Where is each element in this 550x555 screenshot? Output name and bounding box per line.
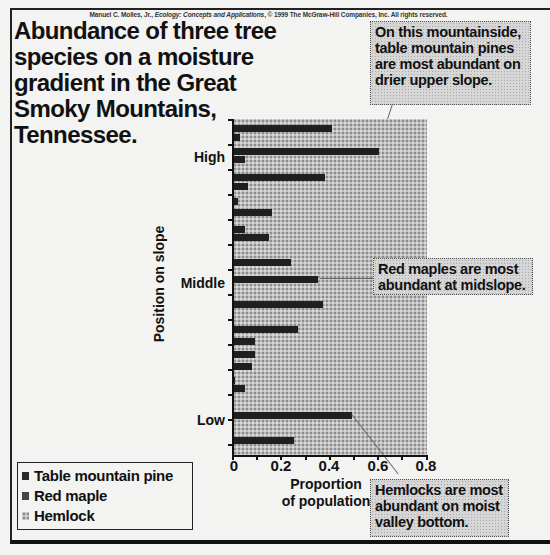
- legend-swatch: [22, 472, 29, 480]
- annotation-top: On this mountainside, table mountain pin…: [370, 21, 531, 105]
- data-bar: [233, 363, 252, 370]
- legend-item-red-maple: Red maple: [22, 486, 188, 506]
- data-bar: [233, 134, 240, 141]
- x-tick-label: 0: [230, 457, 238, 474]
- x-tick: [256, 455, 258, 460]
- y-tick: [228, 419, 233, 421]
- y-label-low: Low: [165, 412, 225, 428]
- y-label-middle: Middle: [165, 275, 225, 291]
- data-bar: [233, 276, 318, 283]
- x-tick: [353, 455, 355, 460]
- data-bar: [233, 156, 245, 163]
- x-axis-title: Proportion of population: [271, 476, 381, 510]
- y-tick: [228, 369, 233, 371]
- legend-label: Table mountain pine: [34, 466, 173, 486]
- y-tick: [228, 244, 233, 246]
- data-bar: [233, 174, 325, 181]
- x-tick: [401, 455, 403, 460]
- x-tick-label: 0.4: [319, 457, 340, 474]
- y-axis-title: Position on slope: [151, 226, 167, 343]
- legend-item-hemlock: Hemlock: [22, 506, 188, 526]
- y-tick: [228, 444, 233, 446]
- legend-label: Hemlock: [34, 506, 94, 526]
- y-tick: [228, 344, 233, 346]
- data-bar: [233, 338, 255, 345]
- y-label-high: High: [165, 149, 225, 165]
- y-tick: [228, 194, 233, 196]
- x-tick-label: 0.6: [368, 457, 389, 474]
- data-bar: [233, 385, 245, 392]
- legend-item-table-mountain-pine: Table mountain pine: [22, 466, 188, 486]
- data-bar: [233, 226, 245, 233]
- data-bar: [233, 259, 291, 266]
- data-bar: [233, 437, 294, 444]
- x-tick-label: 0.8: [416, 457, 437, 474]
- data-bar: [233, 183, 248, 190]
- x-axis-title-line2: of population: [271, 493, 381, 510]
- legend-swatch: [22, 512, 29, 520]
- data-bar: [233, 234, 269, 241]
- legend-swatch: [22, 492, 29, 500]
- annotation-middle-leader: [320, 278, 373, 279]
- data-bar: [233, 209, 272, 216]
- y-tick: [228, 319, 233, 321]
- annotation-bottom: Hemlocks are most abundant on moist vall…: [370, 479, 509, 537]
- y-tick: [228, 219, 233, 221]
- y-tick: [228, 294, 233, 296]
- y-tick: [228, 269, 233, 271]
- data-bar: [233, 301, 323, 308]
- annotation-middle: Red maples are most abundant at midslope…: [373, 258, 533, 295]
- data-bar: [233, 125, 332, 132]
- y-tick: [228, 169, 233, 171]
- credit-rest: , © 1999 The McGraw-Hill Companies, Inc.…: [264, 11, 447, 18]
- data-bar: [233, 351, 255, 358]
- legend: Table mountain pine Red maple Hemlock: [17, 462, 193, 530]
- y-tick: [228, 119, 233, 121]
- x-tick: [305, 455, 307, 460]
- x-axis-title-line1: Proportion: [271, 476, 381, 493]
- legend-label: Red maple: [34, 486, 107, 506]
- data-bar: [233, 148, 379, 155]
- y-tick: [228, 144, 233, 146]
- y-tick: [228, 394, 233, 396]
- x-tick-label: 0.2: [271, 457, 292, 474]
- data-bar: [233, 326, 298, 333]
- data-bar: [233, 412, 352, 419]
